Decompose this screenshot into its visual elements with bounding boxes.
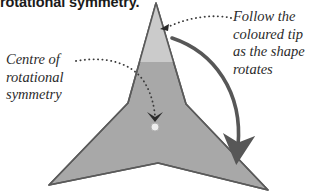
- callout-follow-line-1: Follow the: [233, 8, 305, 26]
- callout-follow-line-2: coloured tip: [233, 26, 305, 44]
- callout-follow-line-4: rotates: [233, 61, 305, 79]
- callout-follow-coloured-tip: Follow the coloured tip as the shape rot…: [233, 8, 305, 78]
- callout-centre-of-rotational-symmetry: Centre of rotational symmetry: [6, 51, 63, 104]
- callout-centre-line-1: Centre of: [6, 51, 63, 69]
- coloured-tip-highlight: [120, 0, 200, 62]
- callout-follow-line-3: as the shape: [233, 43, 305, 61]
- centre-of-rotation-dot: [151, 123, 159, 131]
- callout-centre-line-2: rotational: [6, 69, 63, 87]
- callout-centre-line-3: symmetry: [6, 86, 63, 104]
- diagram-canvas: rotational symmetry. Centre of: [0, 0, 324, 194]
- leader-line-follow: [170, 16, 231, 26]
